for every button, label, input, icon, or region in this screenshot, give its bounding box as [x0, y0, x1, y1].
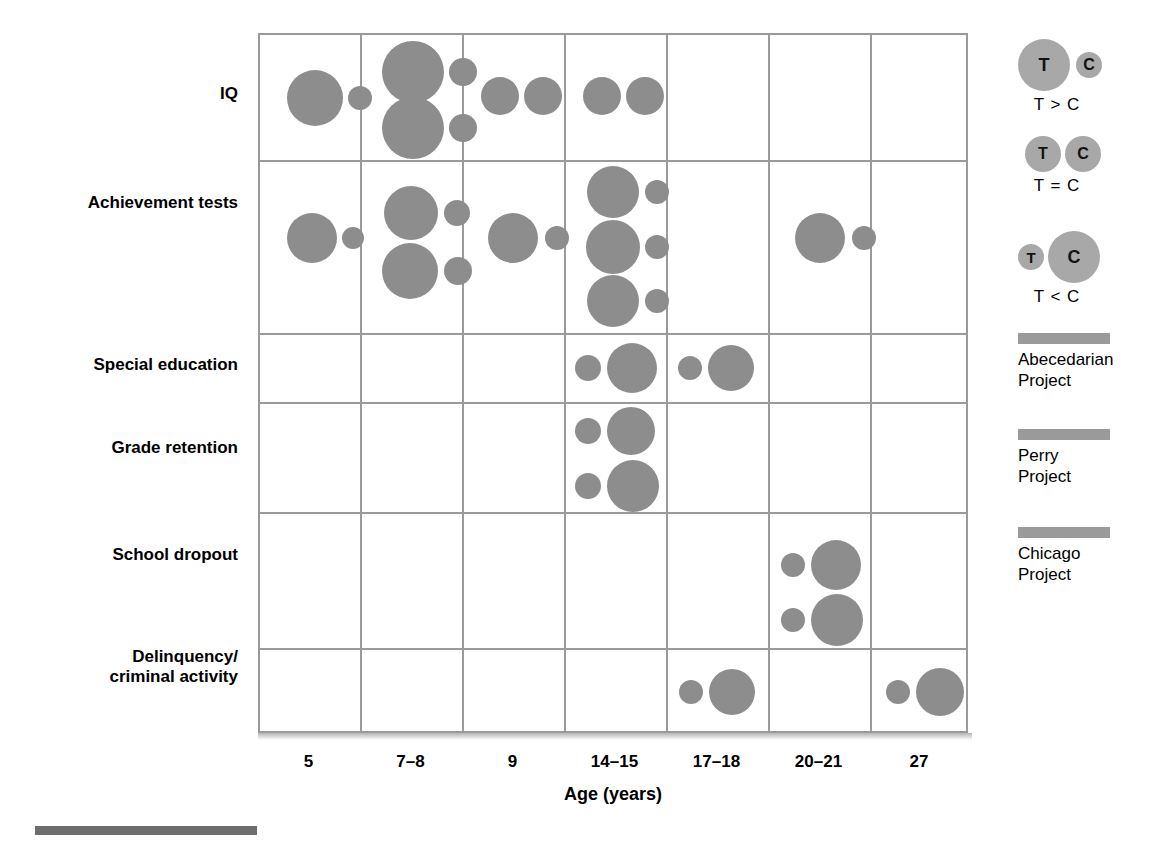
grid-vline	[564, 35, 566, 731]
bubble-control	[348, 86, 372, 110]
legend-project-name-perry: Perry Project	[1018, 445, 1168, 487]
x-tick-17-18: 17–18	[666, 752, 767, 772]
bubble-treatment	[886, 680, 910, 704]
grid-hline	[260, 648, 966, 650]
row-label-text: Grade retention	[111, 438, 238, 457]
bubble-treatment	[384, 186, 438, 240]
x-tick-14-15: 14–15	[564, 752, 665, 772]
bubble-control	[708, 345, 754, 391]
bubble-control	[449, 58, 477, 86]
bubble-control	[444, 257, 472, 285]
legend-circle-treatment: T	[1018, 39, 1070, 91]
legend-circle-treatment: T	[1018, 244, 1044, 270]
bubble-treatment	[382, 41, 444, 103]
bubble-control	[444, 200, 470, 226]
bubble-control	[645, 289, 669, 313]
bubble-control	[449, 114, 477, 142]
legend-project-line2: Project	[1018, 370, 1168, 391]
legend-project-line1: Abecedarian	[1018, 349, 1168, 370]
bubble-chart-figure: IQ Achievement tests Special education G…	[0, 0, 1173, 843]
row-label-delinquency: Delinquency/ criminal activity	[0, 647, 238, 687]
bubble-control	[645, 235, 669, 259]
bubble-control	[811, 540, 861, 590]
legend-project-name-abecedarian: Abecedarian Project	[1018, 349, 1168, 391]
legend-circle-control: C	[1076, 52, 1102, 78]
legend-project-abecedarian: Abecedarian Project	[1000, 333, 1170, 423]
row-label-text: Special education	[93, 355, 238, 374]
plot-grid	[258, 33, 968, 733]
legend-project-line2: Project	[1018, 466, 1168, 487]
grid-vline	[360, 35, 362, 731]
legend-circle-control: C	[1048, 231, 1100, 283]
bubble-treatment	[575, 473, 601, 499]
row-label-text: IQ	[220, 84, 238, 103]
legend-project-name-chicago: Chicago Project	[1018, 543, 1168, 585]
legend-project-chicago: Chicago Project	[1000, 527, 1170, 617]
bubble-treatment	[586, 220, 640, 274]
bubble-treatment	[583, 77, 621, 115]
bubble-control	[811, 594, 863, 646]
x-tick-20-21: 20–21	[768, 752, 869, 772]
row-label-text-line2: criminal activity	[0, 667, 238, 687]
x-axis-title: Age (years)	[258, 784, 968, 805]
bubble-treatment	[781, 608, 805, 632]
plot-shadow	[258, 733, 972, 740]
grid-hline	[260, 160, 966, 162]
bubble-treatment	[382, 243, 438, 299]
grid-vline	[870, 35, 872, 731]
legend-swatch-perry	[1018, 429, 1110, 440]
grid-hline	[260, 333, 966, 335]
bubble-treatment	[481, 77, 519, 115]
row-label-achievement-tests: Achievement tests	[0, 193, 238, 213]
bubble-control	[607, 407, 655, 455]
legend-project-line2: Project	[1018, 564, 1168, 585]
legend-project-line1: Perry	[1018, 445, 1168, 466]
grid-vline	[666, 35, 668, 731]
legend-caption-t-less-c: T < C	[972, 287, 1142, 307]
x-tick-9: 9	[462, 752, 563, 772]
bubble-treatment	[781, 553, 805, 577]
legend-item-t-less-c: T C T < C	[1000, 226, 1170, 306]
row-label-special-education: Special education	[0, 355, 238, 375]
grid-hline	[260, 402, 966, 404]
bubble-treatment	[575, 418, 601, 444]
legend-circle-control: C	[1065, 136, 1101, 172]
bubble-treatment	[587, 275, 639, 327]
row-label-school-dropout: School dropout	[0, 545, 238, 565]
row-label-iq: IQ	[0, 84, 238, 104]
legend-caption-t-equal-c: T = C	[972, 176, 1142, 196]
grid-vline	[768, 35, 770, 731]
legend-swatch-abecedarian	[1018, 333, 1110, 344]
x-tick-27: 27	[870, 752, 968, 772]
x-tick-7-8: 7–8	[360, 752, 461, 772]
x-tick-5: 5	[258, 752, 359, 772]
row-label-text-line1: Delinquency/	[0, 647, 238, 667]
legend-swatch-chicago	[1018, 527, 1110, 538]
row-label-text: School dropout	[112, 545, 238, 564]
bubble-treatment	[679, 680, 703, 704]
bubble-treatment	[575, 355, 601, 381]
legend-project-perry: Perry Project	[1000, 429, 1170, 519]
bubble-control	[545, 226, 569, 250]
bubble-treatment	[678, 356, 702, 380]
bubble-treatment	[287, 70, 343, 126]
bubble-treatment	[382, 97, 444, 159]
bubble-control	[626, 77, 664, 115]
footer-rule	[35, 826, 257, 835]
legend-item-t-equal-c: T C T = C	[1000, 133, 1170, 203]
bubble-control	[645, 180, 669, 204]
bubble-control	[852, 226, 876, 250]
bubble-treatment	[795, 213, 845, 263]
legend-item-t-greater-c: T C T > C	[1000, 33, 1170, 113]
chart-legend: T C T > C T C T = C T C T < C Abecedaria…	[1000, 33, 1170, 733]
bubble-control	[709, 669, 755, 715]
row-label-grade-retention: Grade retention	[0, 438, 238, 458]
bubble-control	[524, 77, 562, 115]
grid-hline	[260, 512, 966, 514]
bubble-treatment	[488, 213, 538, 263]
bubble-control	[916, 668, 964, 716]
bubble-control	[607, 343, 657, 393]
legend-caption-t-greater-c: T > C	[972, 95, 1142, 115]
legend-project-line1: Chicago	[1018, 543, 1168, 564]
bubble-control	[607, 460, 659, 512]
